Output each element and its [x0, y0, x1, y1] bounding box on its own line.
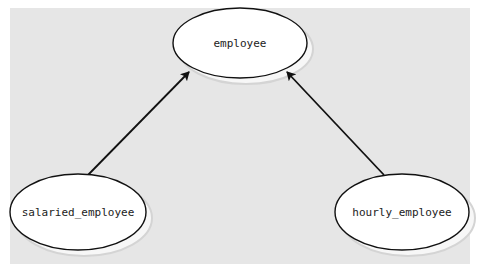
salaried-employee-label: salaried_employee	[22, 206, 135, 219]
node-hourly-employee[interactable]: hourly_employee	[335, 174, 469, 250]
inheritance-diagram: employee salaried_employee hourly_employ…	[0, 0, 479, 264]
node-salaried-employee[interactable]: salaried_employee	[10, 174, 146, 250]
node-employee[interactable]: employee	[173, 8, 307, 78]
employee-label: employee	[214, 37, 267, 50]
edge-salaried-to-employee	[88, 72, 189, 175]
hourly-employee-label: hourly_employee	[352, 206, 451, 219]
edge-hourly-to-employee	[287, 72, 384, 175]
